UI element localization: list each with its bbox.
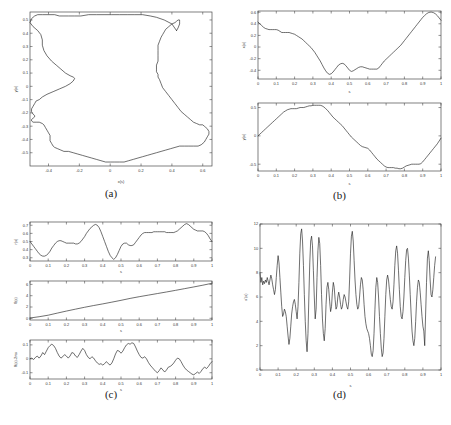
svg-text:0.4: 0.4 <box>328 173 334 178</box>
svg-text:0.3: 0.3 <box>82 263 87 268</box>
svg-text:0.8: 0.8 <box>173 263 178 268</box>
svg-text:0: 0 <box>257 81 260 86</box>
svg-text:0.9: 0.9 <box>191 263 196 268</box>
caption-b: (b) <box>232 189 447 201</box>
svg-text:0.6: 0.6 <box>365 81 370 86</box>
plot-c-theta-residual: 00.10.20.30.40.50.60.70.80.91-0.100.1sθ(… <box>4 336 218 392</box>
plot-c-r: 00.10.20.30.40.50.60.70.80.910.30.40.50.… <box>4 218 218 274</box>
svg-text:1: 1 <box>440 173 442 178</box>
svg-text:0: 0 <box>26 356 29 361</box>
svg-text:0: 0 <box>259 372 262 377</box>
svg-text:0.6: 0.6 <box>365 173 370 178</box>
svg-text:0.4: 0.4 <box>330 372 336 377</box>
svg-text:0.3: 0.3 <box>82 381 87 386</box>
svg-text:4: 4 <box>26 293 29 298</box>
plot-c-theta: 00.10.20.30.40.50.60.70.80.910246sθ(s) <box>4 277 218 333</box>
svg-text:0.9: 0.9 <box>420 372 425 377</box>
svg-text:0.4: 0.4 <box>100 263 106 268</box>
svg-text:0.3: 0.3 <box>310 81 315 86</box>
svg-text:0.8: 0.8 <box>402 81 407 86</box>
svg-text:0.4: 0.4 <box>23 247 29 252</box>
svg-text:0.1: 0.1 <box>45 322 50 327</box>
panel-a: -0.4-0.200.20.40.6-0.5-0.4-0.3-0.2-0.100… <box>4 6 218 184</box>
svg-text:-0.4: -0.4 <box>45 168 53 173</box>
svg-text:s: s <box>120 269 122 274</box>
svg-text:-0.5: -0.5 <box>21 150 28 155</box>
svg-text:0.7: 0.7 <box>384 372 389 377</box>
svg-text:0.8: 0.8 <box>402 173 407 178</box>
svg-text:θ(s): θ(s) <box>13 296 18 303</box>
plot-a: -0.4-0.200.20.40.6-0.5-0.4-0.3-0.2-0.100… <box>4 6 218 184</box>
svg-text:0.2: 0.2 <box>251 33 256 38</box>
svg-text:0.4: 0.4 <box>328 81 334 86</box>
svg-text:10: 10 <box>254 246 259 251</box>
svg-text:0: 0 <box>254 44 257 49</box>
svg-text:0.7: 0.7 <box>23 223 28 228</box>
svg-text:2: 2 <box>26 304 28 309</box>
svg-text:0.5: 0.5 <box>348 372 353 377</box>
svg-text:0: 0 <box>26 84 29 89</box>
svg-text:0.9: 0.9 <box>420 81 425 86</box>
svg-text:0.5: 0.5 <box>347 81 352 86</box>
svg-text:0.2: 0.2 <box>23 57 28 62</box>
plot-d: 00.10.20.30.40.50.60.70.80.91024681012ss… <box>232 218 447 388</box>
svg-text:0: 0 <box>29 263 32 268</box>
svg-text:12: 12 <box>254 221 258 226</box>
svg-text:-0.2: -0.2 <box>76 168 83 173</box>
svg-text:0.1: 0.1 <box>23 342 28 347</box>
svg-text:6: 6 <box>256 294 258 299</box>
panel-b: 00.10.20.30.40.50.60.70.80.91-0.4-0.200.… <box>232 6 447 186</box>
svg-text:0.1: 0.1 <box>275 372 280 377</box>
svg-text:0.1: 0.1 <box>23 70 28 75</box>
svg-text:0.3: 0.3 <box>23 255 28 260</box>
svg-text:0: 0 <box>26 316 29 321</box>
svg-text:0.8: 0.8 <box>173 322 178 327</box>
svg-text:0.7: 0.7 <box>155 381 160 386</box>
svg-text:0.6: 0.6 <box>251 10 256 15</box>
caption-c: (c) <box>4 388 218 400</box>
svg-text:y(s): y(s) <box>13 85 18 92</box>
svg-text:0.5: 0.5 <box>23 17 28 22</box>
svg-text:0: 0 <box>257 173 260 178</box>
caption-d: (d) <box>232 388 447 400</box>
svg-text:0.7: 0.7 <box>383 81 388 86</box>
svg-text:0.2: 0.2 <box>64 263 69 268</box>
svg-text:-0.4: -0.4 <box>249 68 257 73</box>
plot-b-y: 00.10.20.30.40.50.60.70.80.91-0.500.5sy(… <box>232 98 447 186</box>
svg-text:0.4: 0.4 <box>169 168 175 173</box>
svg-text:0.5: 0.5 <box>23 239 28 244</box>
svg-text:0: 0 <box>29 322 32 327</box>
svg-text:0.8: 0.8 <box>402 372 407 377</box>
svg-text:0.8: 0.8 <box>173 381 178 386</box>
svg-text:y(s): y(s) <box>241 133 246 140</box>
svg-text:-0.2: -0.2 <box>21 110 28 115</box>
svg-text:s: s <box>120 328 122 333</box>
svg-text:4: 4 <box>256 319 259 324</box>
svg-text:0.6: 0.6 <box>23 231 28 236</box>
svg-text:0: 0 <box>109 168 112 173</box>
svg-text:r(s): r(s) <box>13 238 18 245</box>
svg-text:0.6: 0.6 <box>366 372 371 377</box>
svg-text:0.4: 0.4 <box>100 381 106 386</box>
svg-text:0.5: 0.5 <box>118 381 123 386</box>
svg-text:0.2: 0.2 <box>293 372 298 377</box>
svg-text:0.9: 0.9 <box>191 381 196 386</box>
svg-text:x(s): x(s) <box>241 41 246 48</box>
svg-text:1: 1 <box>211 322 213 327</box>
svg-text:0.7: 0.7 <box>155 322 160 327</box>
svg-text:0: 0 <box>254 133 257 138</box>
svg-text:0.2: 0.2 <box>292 81 297 86</box>
svg-text:s: s <box>349 181 351 186</box>
svg-text:0.1: 0.1 <box>45 263 50 268</box>
svg-text:0.4: 0.4 <box>100 322 106 327</box>
svg-text:2: 2 <box>256 343 258 348</box>
svg-text:0.9: 0.9 <box>191 322 196 327</box>
svg-text:0: 0 <box>29 381 32 386</box>
svg-text:-0.1: -0.1 <box>21 370 28 375</box>
svg-text:0.5: 0.5 <box>347 173 352 178</box>
svg-text:0.1: 0.1 <box>274 81 279 86</box>
svg-text:0.7: 0.7 <box>383 173 388 178</box>
svg-text:0.9: 0.9 <box>420 173 425 178</box>
svg-text:0.6: 0.6 <box>136 263 141 268</box>
svg-text:8: 8 <box>256 270 258 275</box>
